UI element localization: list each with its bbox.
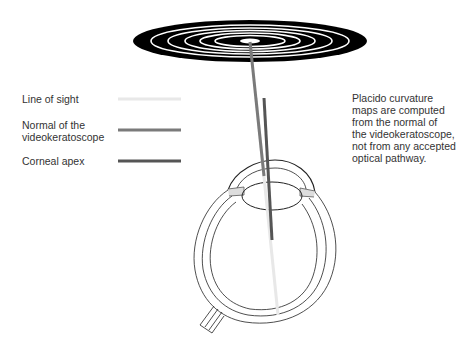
- eye-diagram: [0, 0, 467, 346]
- legend-label-line-of-sight: Line of sight: [22, 93, 79, 105]
- annotation-line: from the normal of: [352, 116, 467, 128]
- annotation-line: maps are computed: [352, 104, 467, 116]
- legend-label-normal-line2: videokeratoscope: [22, 131, 104, 143]
- annotation-text: Placido curvature maps are computed from…: [352, 92, 467, 164]
- legend-label-corneal-apex: Corneal apex: [22, 155, 84, 167]
- annotation-line: optical pathway.: [352, 152, 467, 164]
- annotation-line: the videokeratoscope,: [352, 128, 467, 140]
- legend-label-normal-line1: Normal of the: [22, 119, 104, 131]
- normal-of-videokeratoscope: [250, 42, 264, 176]
- annotation-line: Placido curvature: [352, 92, 467, 104]
- annotation-line: not from any accepted: [352, 140, 467, 152]
- legend-label-normal: Normal of the videokeratoscope: [22, 119, 104, 143]
